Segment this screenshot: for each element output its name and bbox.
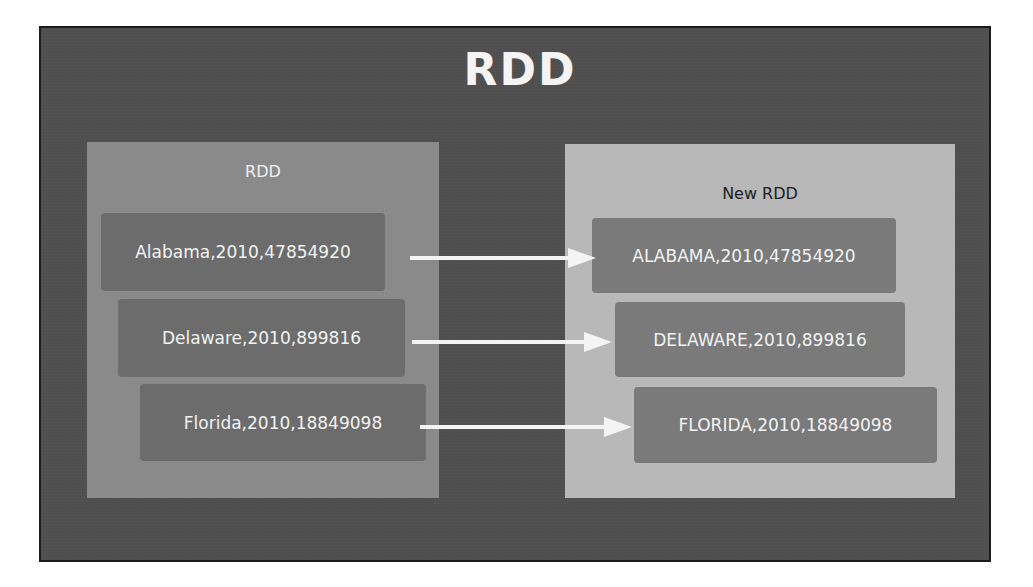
diagram-title: RDD — [420, 44, 620, 95]
target-rdd-label: New RDD — [565, 184, 955, 203]
map-arrow-icon — [412, 330, 612, 354]
target-record-florida: FLORIDA,2010,18849098 — [634, 387, 937, 463]
target-record-delaware: DELAWARE,2010,899816 — [615, 302, 905, 377]
map-arrow-icon — [420, 415, 632, 439]
source-record-florida: Florida,2010,18849098 — [140, 384, 426, 461]
target-record-alabama: ALABAMA,2010,47854920 — [592, 218, 896, 293]
source-record-alabama: Alabama,2010,47854920 — [101, 213, 385, 291]
source-rdd-label: RDD — [87, 162, 439, 181]
map-arrow-icon — [410, 246, 596, 270]
source-record-delaware: Delaware,2010,899816 — [118, 299, 405, 377]
